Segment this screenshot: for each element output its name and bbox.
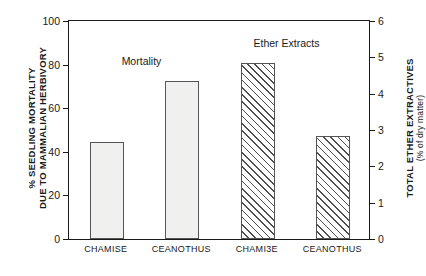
plot-area: 0 20 40 60 80 100 0 1 2 3 4 5 6 Mortalit… [68,20,370,240]
category-label-0: CHAMISE [84,244,127,254]
category-label-2: CHAMI3E [236,244,278,254]
right-tick-5 [369,57,375,58]
right-ticklabel-3: 3 [378,125,384,136]
category-label-3: CEANOTHUS [303,244,362,254]
right-ticklabel-5: 5 [378,52,384,63]
right-tick-4 [369,94,375,95]
right-tick-1 [369,203,375,204]
left-tick-100 [63,21,69,22]
bar-mortality-chamise [90,142,124,239]
left-axis-title-line1: % SEEDLING MORTALITY [26,68,37,189]
left-ticklabel-80: 80 [48,59,60,70]
right-tick-3 [369,130,375,131]
bar-ether-extracts-chamise [241,63,275,239]
left-axis-title: % SEEDLING MORTALITY DUE TO MAMMALIAN HE… [26,18,48,238]
left-ticklabel-100: 100 [42,16,60,27]
annotation-mortality: Mortality [122,55,162,67]
annotation-ether-extracts: Ether Extracts [253,37,319,49]
bar-mortality-ceanothus [165,81,199,239]
left-ticklabel-0: 0 [54,234,60,245]
left-tick-40 [63,152,69,153]
left-ticklabel-20: 20 [48,190,60,201]
left-ticklabel-60: 60 [48,103,60,114]
right-ticklabel-1: 1 [378,197,384,208]
right-axis-title: TOTAL ETHER EXTRACTIVES (% of dry matter… [404,18,426,238]
right-tick-2 [369,166,375,167]
right-axis-title-line2: (% of dry matter) [415,18,426,238]
right-tick-6 [369,21,375,22]
category-label-1: CEANOTHUS [152,244,211,254]
left-tick-60 [63,108,69,109]
left-tick-0 [63,239,69,240]
bar-ether-extracts-ceanothus [316,136,350,239]
left-tick-20 [63,195,69,196]
right-ticklabel-0: 0 [378,234,384,245]
right-ticklabel-6: 6 [378,16,384,27]
right-axis-title-line1: TOTAL ETHER EXTRACTIVES [404,58,415,197]
right-tick-0 [369,239,375,240]
left-ticklabel-40: 40 [48,147,60,158]
left-tick-80 [63,65,69,66]
left-axis-title-line2: DUE TO MAMMALIAN HERBIVORY [37,18,48,238]
right-ticklabel-2: 2 [378,161,384,172]
right-ticklabel-4: 4 [378,88,384,99]
